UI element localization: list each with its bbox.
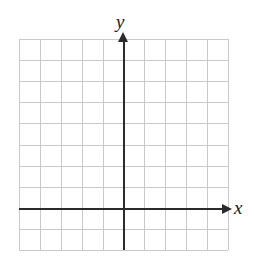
grid-line-horizontal bbox=[19, 250, 228, 251]
x-axis-label: x bbox=[234, 198, 242, 217]
y-axis-label: y bbox=[116, 12, 124, 31]
x-axis-arrowhead-icon bbox=[222, 204, 232, 214]
y-axis-line bbox=[123, 42, 125, 250]
y-axis-arrowhead-icon bbox=[118, 32, 128, 42]
coordinate-grid-figure: x y bbox=[0, 0, 254, 260]
grid-line-vertical bbox=[228, 39, 229, 250]
x-axis-line bbox=[19, 208, 222, 210]
